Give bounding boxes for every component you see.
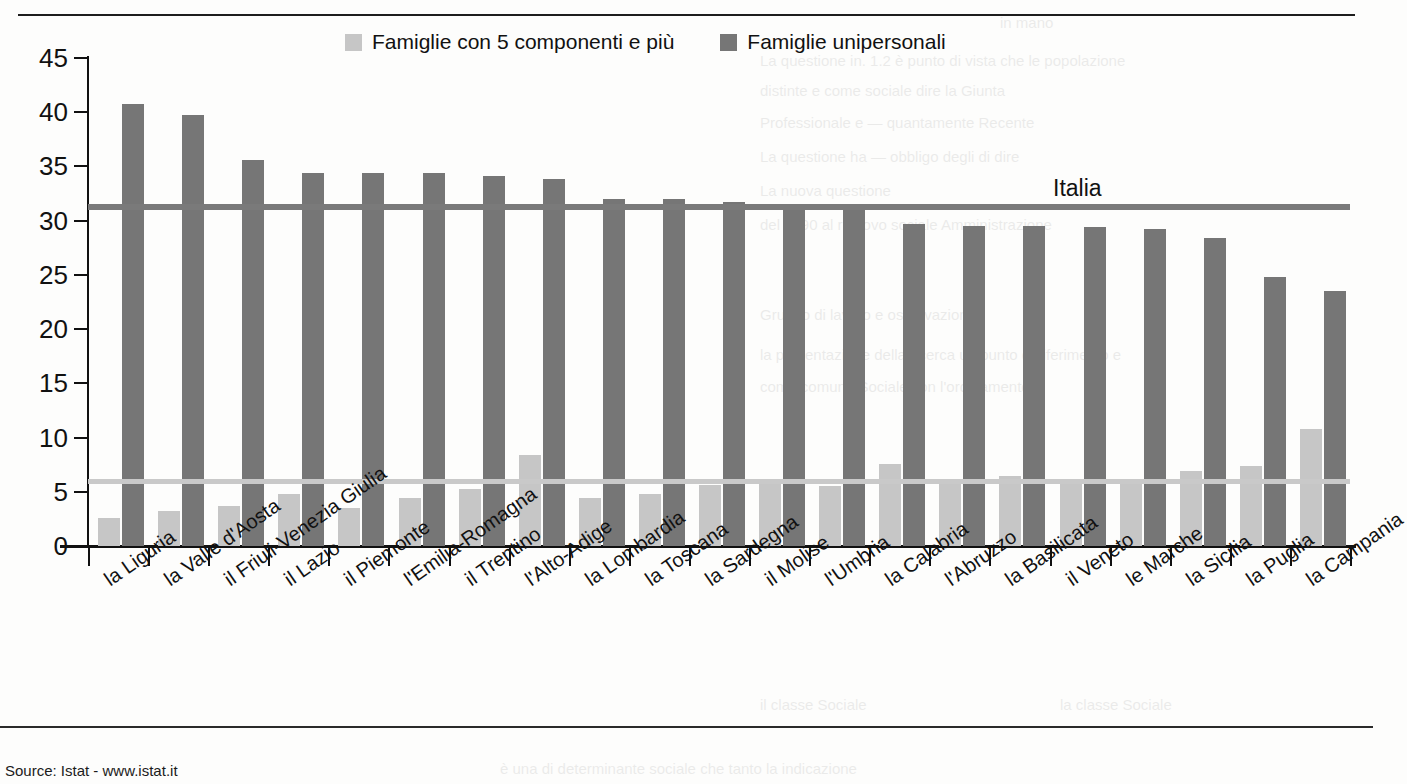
x-axis-tick [1350, 548, 1352, 566]
x-axis-tick [809, 548, 811, 566]
x-axis-tick [1050, 548, 1052, 566]
x-axis-tick [689, 548, 691, 566]
x-axis-tick [989, 548, 991, 566]
source-note: Source: Istat - www.istat.it [5, 762, 178, 779]
x-axis-tick [208, 548, 210, 566]
x-axis-tick [88, 548, 90, 566]
x-axis-label: la Puglia [1242, 528, 1318, 591]
x-axis-tick [749, 548, 751, 566]
x-axis-tick [869, 548, 871, 566]
x-axis-tick [569, 548, 571, 566]
x-axis-tick [268, 548, 270, 566]
x-axis-tick [148, 548, 150, 566]
x-axis-label: l'Umbria [821, 530, 894, 591]
x-axis-tick [1110, 548, 1112, 566]
x-axis-tick [449, 548, 451, 566]
x-axis-tick [629, 548, 631, 566]
x-axis-tick [1230, 548, 1232, 566]
x-axis-tick [1290, 548, 1292, 566]
x-axis-tick [388, 548, 390, 566]
x-axis-tick [509, 548, 511, 566]
x-axis-tick [1170, 548, 1172, 566]
x-axis-tick [328, 548, 330, 566]
x-axis-tick [929, 548, 931, 566]
x-axis-label: la Campania [1302, 508, 1407, 591]
